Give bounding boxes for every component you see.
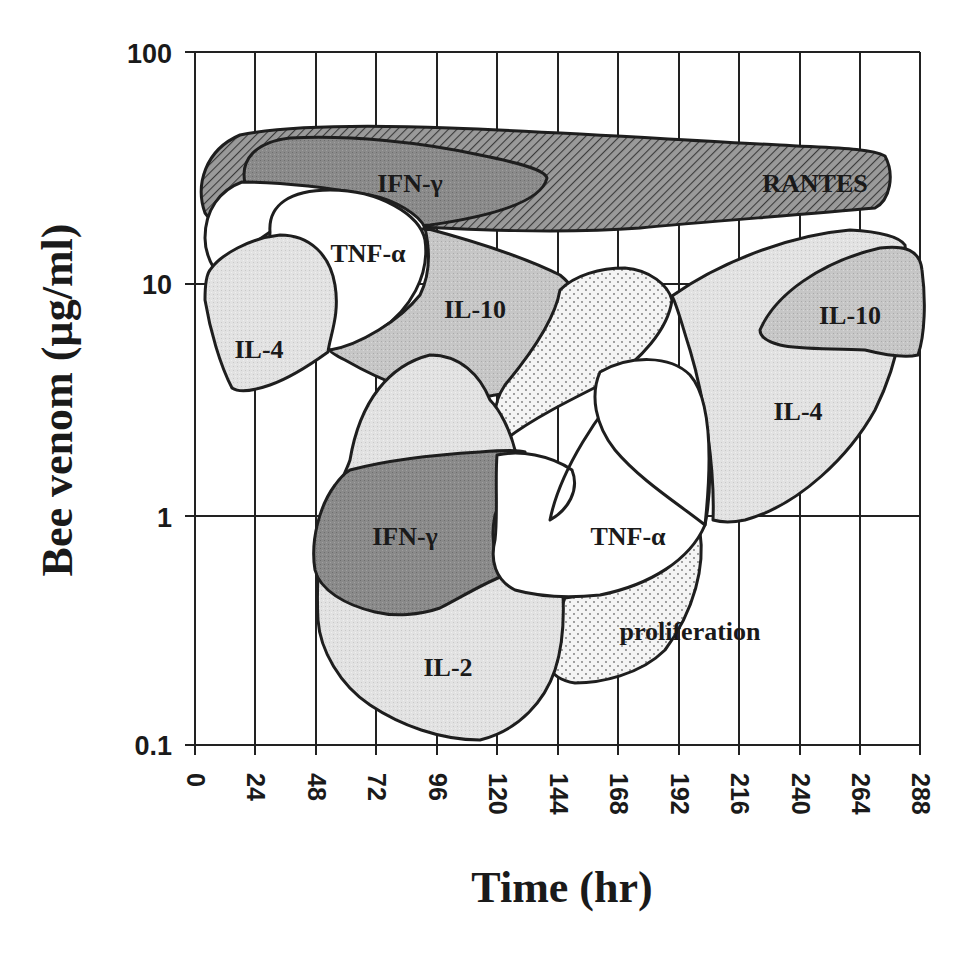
label-ifn-lower: IFN-γ — [372, 522, 438, 551]
x-tick: 168 — [605, 773, 633, 815]
label-il4-right: IL-4 — [773, 397, 822, 426]
x-tick: 48 — [303, 773, 331, 801]
x-axis-title: Time (hr) — [471, 863, 652, 912]
label-rantes: RANTES — [762, 169, 867, 198]
label-il2: IL-2 — [423, 653, 472, 682]
label-il4-upper: IL-4 — [234, 335, 283, 364]
x-tick: 264 — [847, 773, 875, 815]
y-tick: 0.1 — [134, 731, 172, 761]
y-tick: 10 — [142, 270, 172, 300]
y-tick: 1 — [157, 503, 172, 533]
x-tick: 240 — [787, 773, 815, 815]
x-tick: 120 — [484, 773, 512, 815]
y-tick: 100 — [127, 39, 172, 69]
x-tick: 216 — [726, 773, 754, 815]
y-axis-title: Bee venom (µg/ml) — [33, 224, 82, 577]
label-proliferation: proliferation — [619, 617, 761, 646]
x-tick: 144 — [545, 773, 573, 815]
x-tick: 192 — [666, 773, 694, 815]
label-tnf-lower: TNF-α — [590, 522, 666, 551]
label-il10-right: IL-10 — [819, 301, 881, 330]
x-tick: 0 — [182, 773, 210, 787]
response-regions — [201, 126, 924, 740]
label-tnf-upper: TNF-α — [330, 239, 406, 268]
x-tick: 288 — [907, 773, 935, 815]
x-tick: 72 — [363, 773, 391, 801]
x-tick: 24 — [242, 773, 270, 801]
x-tick: 96 — [424, 773, 452, 801]
y-axis-ticks: 100 10 1 0.1 — [127, 39, 172, 761]
label-il10-upper: IL-10 — [444, 295, 506, 324]
x-axis-ticks: 0 24 48 72 96 120 144 168 192 216 240 26… — [182, 773, 935, 815]
label-ifn-upper: IFN-γ — [377, 169, 443, 198]
chart: RANTES IFN-γ TNF-α IL-10 IL-4 IL-10 IL-4… — [0, 0, 971, 953]
